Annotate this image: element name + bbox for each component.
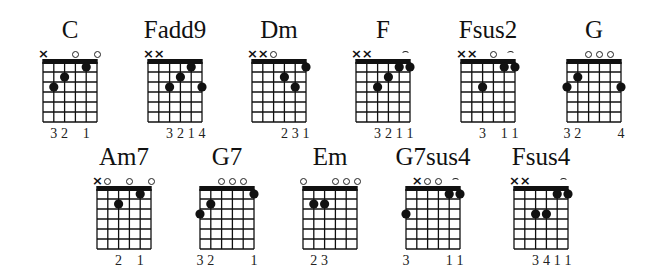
nut bbox=[355, 59, 410, 64]
fretboard-grid bbox=[200, 189, 254, 249]
muted-string-icon bbox=[520, 176, 530, 186]
finger-number: 3 bbox=[49, 127, 59, 141]
finger-dot bbox=[280, 72, 289, 81]
fretboard-grid bbox=[148, 62, 202, 122]
chord-name: Fsus4 bbox=[484, 144, 598, 169]
muted-string-icon bbox=[467, 49, 477, 59]
open-string-icon bbox=[227, 176, 237, 186]
finger-numbers: 3214 bbox=[148, 127, 202, 141]
fretboard-grid bbox=[356, 62, 410, 122]
muted-string-icon bbox=[351, 49, 361, 59]
open-string-icon bbox=[298, 176, 308, 186]
nut bbox=[405, 186, 460, 191]
fretboard-grid bbox=[252, 62, 306, 122]
string-markers bbox=[252, 49, 306, 59]
chord-name: Fadd9 bbox=[118, 17, 232, 42]
nut bbox=[302, 186, 357, 191]
finger-dot bbox=[455, 189, 464, 198]
muted-string-icon bbox=[412, 176, 422, 186]
finger-number: 2 bbox=[60, 127, 70, 141]
finger-number: 1 bbox=[455, 254, 465, 268]
fretboard-grid bbox=[461, 62, 515, 122]
nut bbox=[96, 186, 151, 191]
muted-string-icon bbox=[38, 49, 48, 59]
string-markers bbox=[567, 49, 621, 59]
finger-number: 1 bbox=[552, 254, 562, 268]
finger-dot bbox=[478, 82, 487, 91]
finger-numbers: 311 bbox=[406, 254, 460, 268]
finger-numbers: 3411 bbox=[514, 254, 568, 268]
string-markers bbox=[514, 176, 568, 186]
chord-name: Fsus2 bbox=[431, 17, 545, 42]
muted-string-icon bbox=[362, 49, 372, 59]
finger-numbers: 311 bbox=[461, 127, 515, 141]
fretboard-grid bbox=[567, 62, 621, 122]
finger-number: 1 bbox=[499, 127, 509, 141]
open-string-icon bbox=[217, 176, 227, 186]
finger-number: 1 bbox=[249, 254, 259, 268]
open-string-icon bbox=[341, 176, 351, 186]
finger-number: 3 bbox=[401, 254, 411, 268]
finger-numbers: 3211 bbox=[356, 127, 410, 141]
finger-dot bbox=[176, 72, 185, 81]
open-string-icon bbox=[269, 49, 279, 59]
finger-dot bbox=[373, 82, 382, 91]
finger-dot bbox=[573, 72, 582, 81]
nut bbox=[147, 59, 202, 64]
muted-string-icon bbox=[258, 49, 268, 59]
nut bbox=[460, 59, 515, 64]
finger-number: 1 bbox=[186, 127, 196, 141]
open-string-icon bbox=[423, 176, 433, 186]
nut bbox=[513, 186, 568, 191]
finger-number: 4 bbox=[616, 127, 626, 141]
finger-dot bbox=[114, 199, 123, 208]
open-string-icon bbox=[70, 49, 80, 59]
barre-arc-icon bbox=[505, 49, 515, 59]
finger-dot bbox=[309, 199, 318, 208]
finger-dot bbox=[187, 62, 196, 71]
finger-number: 2 bbox=[175, 127, 185, 141]
finger-dot bbox=[445, 189, 454, 198]
finger-numbers: 21 bbox=[97, 254, 151, 268]
finger-dot bbox=[320, 199, 329, 208]
fretboard-grid bbox=[514, 189, 568, 249]
finger-number: 1 bbox=[301, 127, 311, 141]
muted-string-icon bbox=[247, 49, 257, 59]
finger-number: 3 bbox=[531, 254, 541, 268]
string-markers bbox=[461, 49, 515, 59]
finger-numbers: 231 bbox=[252, 127, 306, 141]
open-string-icon bbox=[330, 176, 340, 186]
open-string-icon bbox=[433, 176, 443, 186]
open-string-icon bbox=[124, 176, 134, 186]
finger-number: 2 bbox=[309, 254, 319, 268]
finger-dot bbox=[542, 209, 551, 218]
finger-dot bbox=[384, 72, 393, 81]
open-string-icon bbox=[594, 49, 604, 59]
string-markers bbox=[148, 49, 202, 59]
finger-dot bbox=[49, 82, 58, 91]
finger-dot bbox=[195, 209, 204, 218]
barre-arc-icon bbox=[450, 176, 460, 186]
finger-dot bbox=[291, 82, 300, 91]
finger-dot bbox=[401, 209, 410, 218]
string-markers bbox=[303, 176, 357, 186]
chord-name: F bbox=[326, 17, 440, 42]
finger-number: 3 bbox=[195, 254, 205, 268]
finger-dot bbox=[301, 62, 310, 71]
nut bbox=[251, 59, 306, 64]
finger-dot bbox=[562, 82, 571, 91]
finger-dot bbox=[616, 82, 625, 91]
open-string-icon bbox=[238, 176, 248, 186]
fretboard-grid bbox=[43, 62, 97, 122]
string-markers bbox=[43, 49, 97, 59]
muted-string-icon bbox=[509, 176, 519, 186]
fretboard-grid bbox=[406, 189, 460, 249]
finger-number: 4 bbox=[197, 127, 207, 141]
open-string-icon bbox=[605, 49, 615, 59]
fretboard-grid bbox=[303, 189, 357, 249]
finger-number: 1 bbox=[135, 254, 145, 268]
finger-number: 2 bbox=[573, 127, 583, 141]
finger-dot bbox=[405, 62, 414, 71]
muted-string-icon bbox=[92, 176, 102, 186]
finger-number: 2 bbox=[114, 254, 124, 268]
